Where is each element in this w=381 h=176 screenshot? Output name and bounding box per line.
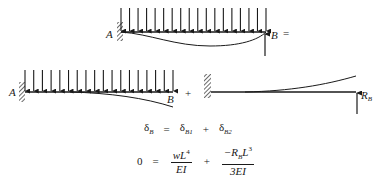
- fraction-udl-deflection: wL4 EI: [171, 147, 192, 175]
- top-propped-cantilever: A B =: [105, 8, 289, 56]
- zero-lhs: 0: [137, 155, 143, 167]
- distributed-load-arrows: [25, 70, 173, 91]
- fraction-point-load-deflection: −RBL3 3EI: [222, 144, 254, 176]
- plus-sign: +: [203, 123, 209, 135]
- deflection-curve: [121, 32, 266, 46]
- distributed-load-arrows: [121, 8, 266, 31]
- deflection-curve: [70, 92, 173, 107]
- delta-b1: δB1: [180, 121, 193, 136]
- label-b-top: B: [271, 29, 278, 41]
- fixed-support-wall-icon: [204, 74, 211, 98]
- compatibility-equation: δB = δB1 + δB2: [144, 121, 232, 136]
- label-b-left: B: [167, 93, 174, 105]
- label-a-top: A: [105, 28, 113, 40]
- plus-operator: +: [185, 87, 191, 99]
- deflection-curve: [245, 76, 356, 92]
- bottom-right-cantilever-point-load: RB: [204, 74, 373, 114]
- label-a-left: A: [8, 86, 16, 98]
- equals-sign: =: [163, 123, 169, 135]
- delta-b2: δB2: [219, 121, 232, 136]
- fixed-support-wall-icon: [19, 82, 25, 102]
- delta-b: δB: [144, 121, 153, 136]
- bottom-left-cantilever-udl: A B: [8, 70, 174, 107]
- plus-sign: +: [204, 155, 210, 167]
- reaction-label-rb: RB: [360, 89, 373, 103]
- equals-sign: =: [153, 155, 159, 167]
- equals-operator: =: [283, 27, 289, 39]
- substituted-equation: 0 = wL4 EI + −RBL3 3EI: [137, 144, 256, 176]
